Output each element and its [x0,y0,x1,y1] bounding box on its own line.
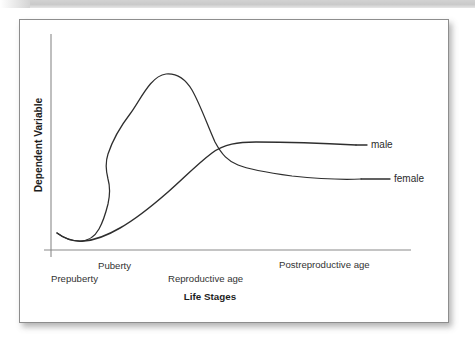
figure-card: male female Prepuberty Puberty Reproduct… [19,19,449,323]
x-label-puberty: Puberty [98,260,131,271]
y-axis-title: Dependent Variable [33,97,44,192]
figure-screenshot: male female Prepuberty Puberty Reproduct… [0,0,475,345]
male-curve [57,142,356,241]
female-curve [57,74,361,241]
x-label-reproductive-age: Reproductive age [168,273,243,284]
scan-top-gray-band [28,0,475,8]
series-label-male: male [371,139,393,150]
line-chart: male female Prepuberty Puberty Reproduct… [20,20,448,322]
x-label-postreproductive-age: Postreproductive age [279,259,370,270]
x-label-prepuberty: Prepuberty [51,273,98,284]
scan-top-gray-band-fade [0,0,30,8]
series-label-female: female [394,173,424,184]
x-axis-title: Life Stages [184,291,237,302]
